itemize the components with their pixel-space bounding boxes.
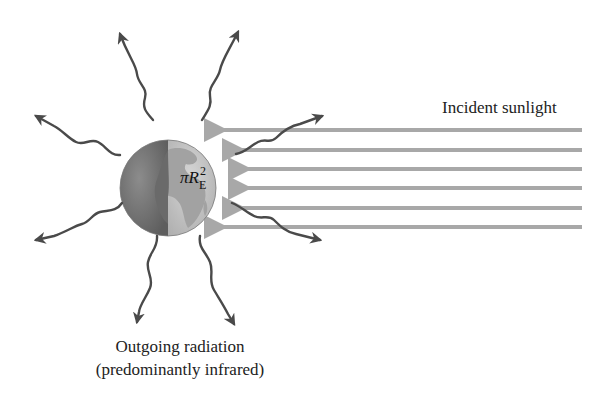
outgoing-arrow [36, 116, 120, 155]
area-superscript-subscript: 2E [199, 168, 209, 188]
area-subscript: E [199, 178, 206, 193]
cross-section-area-label: πR2E [180, 168, 209, 188]
outgoing-label-line1: Outgoing radiation [60, 335, 300, 358]
outgoing-arrow [200, 236, 234, 324]
outgoing-arrow [36, 203, 122, 240]
area-superscript: 2 [200, 164, 206, 179]
incident-sunlight-label: Incident sunlight [442, 98, 557, 118]
outgoing-arrow [202, 32, 238, 120]
incident-sunlight-arrows [224, 130, 582, 227]
outgoing-arrow [137, 236, 157, 322]
outgoing-radiation-label: Outgoing radiation (predominantly infrar… [60, 335, 300, 381]
area-symbol: πR [180, 168, 199, 187]
outgoing-label-line2: (predominantly infrared) [60, 358, 300, 381]
outgoing-arrow [120, 34, 153, 120]
